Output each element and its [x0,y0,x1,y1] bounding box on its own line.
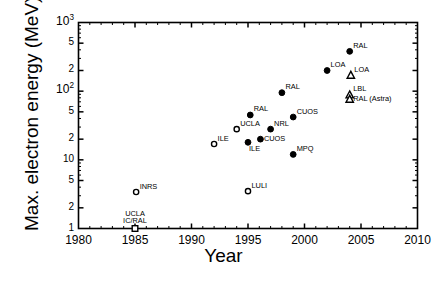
data-point [324,68,330,74]
data-point [212,141,217,146]
data-point-label: CUOS [297,108,318,116]
data-point [279,90,285,96]
data-point-label: UCLAIC/RAL [105,210,165,225]
data-point-label: RAL [285,83,299,91]
x-tick-label: 2005 [331,234,391,246]
data-point-label: RAL [353,42,367,50]
x-tick-label: 1985 [105,234,165,246]
data-point-label: LULI [252,182,268,190]
data-point [132,226,138,232]
data-point-label: LOA [354,66,369,74]
data-point-label: RAL [254,105,268,113]
data-point-label: LBL [353,85,366,93]
y-axis-title: Max. electron energy (MeV) [21,0,43,231]
x-tick-label: 2010 [388,234,447,246]
data-point [290,151,296,157]
data-point [245,189,250,194]
data-point [347,48,353,54]
data-point [258,136,264,142]
x-axis-title: Year [0,246,447,265]
data-point-label: INRS [140,183,158,191]
data-point-label: CUOS [264,135,285,143]
x-tick-label: 1990 [162,234,222,246]
data-point-label: MPQ [297,145,314,153]
x-tick-label: 1995 [218,234,278,246]
chart-figure: 1980198519901995200020052010125102510225… [0,0,447,281]
data-point-label: UCLA [240,120,260,128]
data-point [247,112,253,118]
data-point [134,189,139,194]
data-point-label: NRL [274,120,289,128]
x-tick-label: 2000 [275,234,335,246]
data-point-label: ILE [249,145,260,153]
x-tick-label: 1980 [49,234,109,246]
data-point-label: LOA [331,61,346,69]
data-point [290,114,296,120]
data-point [234,127,239,132]
data-point-label: ILE [218,135,229,143]
data-point [268,126,274,132]
data-point-label: RAL (Astra) [353,95,391,103]
